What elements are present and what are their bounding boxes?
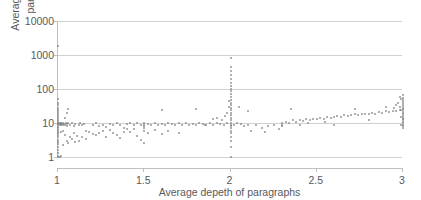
data-point — [385, 110, 387, 112]
data-point — [230, 127, 232, 129]
data-point — [374, 113, 376, 115]
data-point — [157, 124, 159, 126]
data-point — [212, 124, 214, 126]
x-tick-mark — [143, 168, 144, 172]
data-point — [174, 124, 176, 126]
data-point — [140, 124, 142, 126]
data-point — [105, 136, 107, 138]
data-point — [57, 102, 59, 104]
data-point — [136, 135, 138, 137]
data-point — [192, 123, 194, 125]
data-point — [102, 124, 104, 126]
data-point — [57, 98, 59, 100]
data-point — [230, 90, 232, 92]
y-tick-label: 10 — [10, 118, 54, 128]
scatter-chart: Average #triples of paragraphs 110100100… — [0, 0, 421, 200]
gridline — [58, 55, 402, 56]
data-point — [364, 113, 366, 115]
data-point — [123, 127, 125, 129]
data-point — [219, 123, 221, 125]
data-point — [98, 132, 100, 134]
data-point — [264, 131, 266, 133]
data-point — [340, 116, 342, 118]
data-point — [361, 113, 363, 115]
data-point — [66, 112, 68, 114]
data-point — [143, 130, 145, 132]
data-point — [261, 127, 263, 129]
data-point — [216, 117, 218, 119]
data-point — [95, 134, 97, 136]
data-point — [116, 134, 118, 136]
data-point — [147, 123, 149, 125]
data-point — [230, 125, 232, 127]
data-point — [230, 88, 232, 90]
data-point — [230, 93, 232, 95]
data-point — [85, 130, 87, 132]
data-point — [395, 104, 397, 106]
data-point — [74, 123, 76, 125]
data-point — [67, 108, 69, 110]
data-point — [230, 78, 232, 80]
data-point — [305, 118, 307, 120]
data-point — [78, 140, 80, 142]
data-point — [378, 111, 380, 113]
data-point — [167, 130, 169, 132]
data-point — [250, 130, 252, 132]
data-point — [350, 114, 352, 116]
data-point — [205, 124, 207, 126]
data-point — [278, 128, 280, 130]
data-point — [57, 152, 59, 154]
data-point — [150, 124, 152, 126]
data-point — [83, 123, 85, 125]
data-point — [330, 117, 332, 119]
data-point — [230, 156, 232, 158]
data-point — [230, 57, 232, 59]
data-point — [402, 107, 404, 109]
data-point — [212, 118, 214, 120]
data-point — [402, 97, 404, 99]
data-point — [247, 110, 249, 112]
data-point — [164, 124, 166, 126]
x-tick-label: 3 — [382, 174, 421, 186]
data-point — [126, 128, 128, 130]
y-tick-label: 10000 — [10, 16, 54, 26]
data-point — [230, 146, 232, 148]
data-point — [230, 99, 232, 101]
data-point — [71, 122, 73, 124]
data-point — [216, 122, 218, 124]
data-point — [62, 144, 64, 146]
data-point — [295, 121, 297, 123]
data-point — [230, 117, 232, 119]
data-point — [230, 85, 232, 87]
data-point — [333, 116, 335, 118]
data-point — [133, 128, 135, 130]
data-point — [188, 124, 190, 126]
data-point — [381, 112, 383, 114]
data-point — [230, 104, 232, 106]
data-point — [85, 138, 87, 140]
data-point — [64, 117, 66, 119]
data-point — [119, 137, 121, 139]
data-point — [302, 120, 304, 122]
data-point — [133, 124, 135, 126]
x-axis-title: Average depeth of paragraphs — [57, 186, 402, 198]
y-tick-mark — [54, 21, 58, 22]
data-point — [88, 131, 90, 133]
data-point — [57, 143, 59, 145]
data-point — [92, 133, 94, 135]
data-point — [299, 119, 301, 121]
x-tick-mark — [57, 168, 58, 172]
data-point — [230, 107, 232, 109]
data-point — [204, 124, 206, 126]
data-point — [368, 119, 370, 121]
data-point — [402, 99, 404, 101]
data-point — [161, 123, 163, 125]
plot-area — [57, 21, 402, 157]
data-point — [281, 125, 283, 127]
data-point — [64, 134, 66, 136]
data-point — [319, 117, 321, 119]
data-point — [368, 113, 370, 115]
data-point — [354, 113, 356, 115]
data-point — [81, 136, 83, 138]
y-tick-mark — [54, 55, 58, 56]
